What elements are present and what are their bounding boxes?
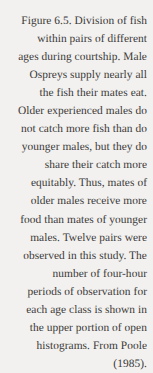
caption-line: periods of observation for (6, 283, 147, 301)
caption-line: younger males, but they do (6, 138, 147, 156)
caption-line: histograms. From Poole (6, 337, 147, 355)
caption-line: (1985). (6, 355, 147, 373)
caption-line: observed in this study. The (6, 247, 147, 265)
caption-line: within pairs of different (6, 30, 147, 48)
caption-line: ages during courtship. Male (6, 48, 147, 66)
caption-line: number of four-hour (6, 265, 147, 283)
caption-line: Ospreys supply nearly all (6, 66, 147, 84)
caption-line: older males receive more (6, 192, 147, 210)
caption-line: the upper portion of open (6, 319, 147, 337)
caption-line: males. Twelve pairs were (6, 229, 147, 247)
caption-line: Figure 6.5. Division of fish (6, 12, 147, 30)
caption-line: food than mates of younger (6, 211, 147, 229)
caption-line: not catch more fish than do (6, 120, 147, 138)
caption-line: equitably. Thus, mates of (6, 174, 147, 192)
caption-line: Older experienced males do (6, 102, 147, 120)
caption-line: the fish their mates eat. (6, 84, 147, 102)
caption-line: each age class is shown in (6, 301, 147, 319)
caption-line: share their catch more (6, 156, 147, 174)
